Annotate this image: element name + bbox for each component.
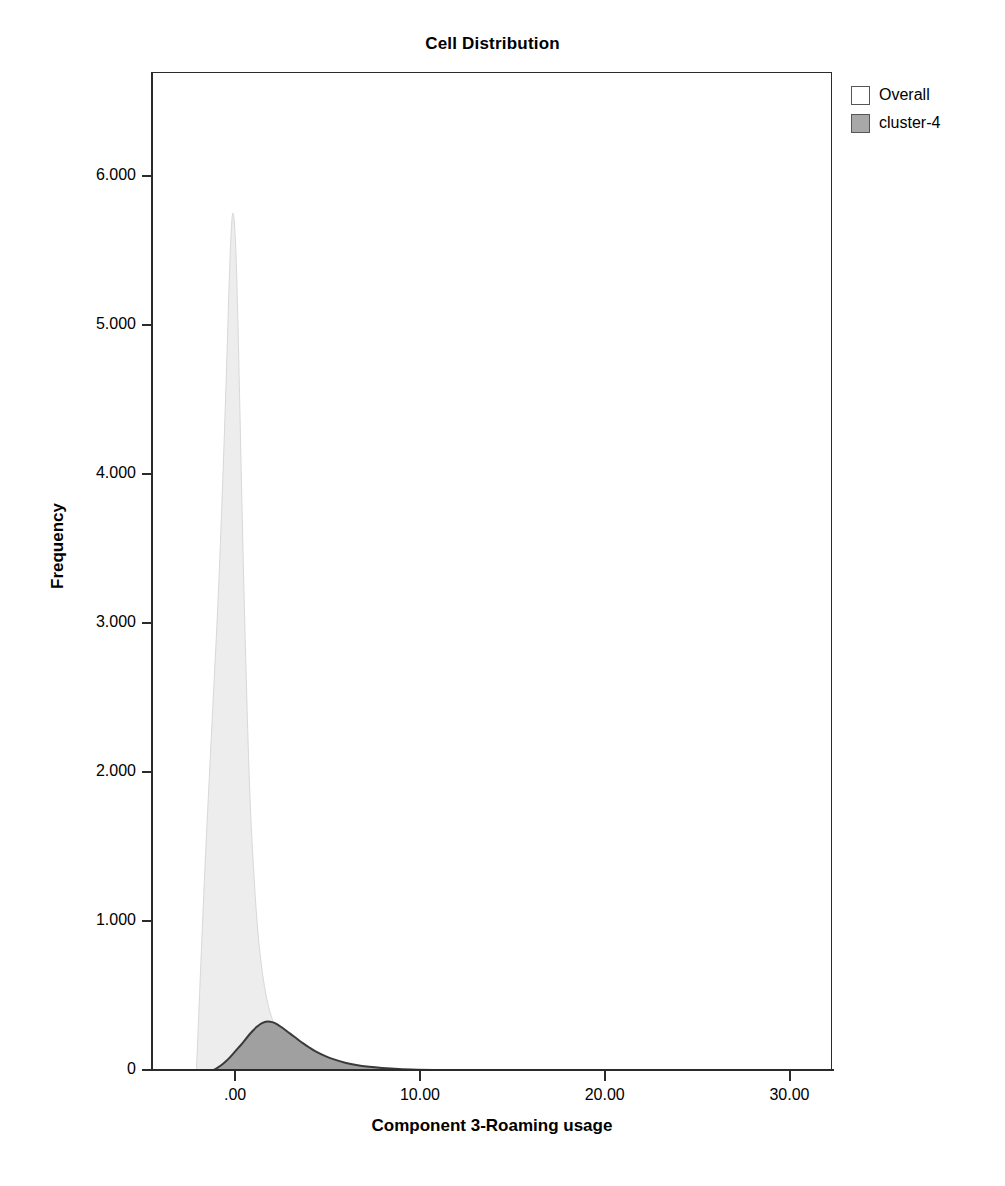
x-tick-label-0: .00 bbox=[190, 1086, 280, 1104]
series-curve-overall bbox=[196, 213, 421, 1070]
y-tick-label-6: 6.000 bbox=[64, 166, 136, 184]
x-tick-label-2: 20.00 bbox=[560, 1086, 650, 1104]
x-tick-1 bbox=[419, 1071, 421, 1081]
legend-label-overall: Overall bbox=[879, 86, 930, 104]
y-tick-4 bbox=[142, 473, 152, 475]
y-tick-label-1: 1.000 bbox=[64, 911, 136, 929]
x-tick-2 bbox=[604, 1071, 606, 1081]
legend-item-cluster-4[interactable]: cluster-4 bbox=[851, 110, 1001, 136]
distribution-curves bbox=[153, 73, 832, 1070]
x-tick-label-3: 30.00 bbox=[745, 1086, 835, 1104]
chart-title: Cell Distribution bbox=[0, 34, 985, 54]
y-axis-title: Frequency bbox=[48, 476, 68, 616]
x-tick-label-1: 10.00 bbox=[375, 1086, 465, 1104]
plot-area bbox=[152, 72, 832, 1070]
legend-swatch-cluster-4 bbox=[851, 114, 870, 133]
y-tick-label-4: 4.000 bbox=[64, 464, 136, 482]
y-tick-6 bbox=[142, 175, 152, 177]
series-curve-cluster-4 bbox=[211, 1022, 818, 1070]
x-axis-title: Component 3-Roaming usage bbox=[152, 1116, 832, 1136]
x-tick-0 bbox=[234, 1071, 236, 1081]
legend-swatch-overall bbox=[851, 86, 870, 105]
y-tick-0 bbox=[142, 1069, 152, 1071]
legend-item-overall[interactable]: Overall bbox=[851, 82, 1001, 108]
y-tick-label-3: 3.000 bbox=[64, 613, 136, 631]
y-tick-1 bbox=[142, 920, 152, 922]
legend-label-cluster-4: cluster-4 bbox=[879, 114, 940, 132]
chart-legend: Overall cluster-4 bbox=[851, 82, 1001, 138]
x-tick-3 bbox=[789, 1071, 791, 1081]
x-axis-line bbox=[152, 1069, 834, 1071]
y-tick-5 bbox=[142, 324, 152, 326]
y-axis-ticks: 01.0002.0003.0004.0005.0006.000 bbox=[56, 0, 136, 1186]
y-tick-label-2: 2.000 bbox=[64, 762, 136, 780]
y-tick-3 bbox=[142, 622, 152, 624]
y-tick-label-5: 5.000 bbox=[64, 315, 136, 333]
chart-container: Cell Distribution .0010.0020.0030.00 01.… bbox=[0, 0, 1005, 1186]
y-tick-2 bbox=[142, 771, 152, 773]
y-tick-label-0: 0 bbox=[64, 1060, 136, 1078]
